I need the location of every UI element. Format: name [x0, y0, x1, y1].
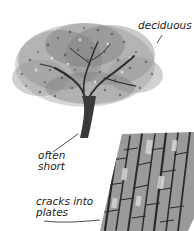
cracks-into-plates-label-line2: plates	[36, 207, 68, 218]
tree-illustration	[0, 0, 194, 231]
bark-closeup	[95, 128, 194, 231]
deciduous-leader-line	[157, 35, 162, 43]
cracks-leader-line	[44, 220, 100, 222]
tree-canopy	[12, 23, 163, 107]
often-short-label-line2: short	[38, 161, 65, 172]
deciduous-label: deciduous	[138, 20, 192, 31]
